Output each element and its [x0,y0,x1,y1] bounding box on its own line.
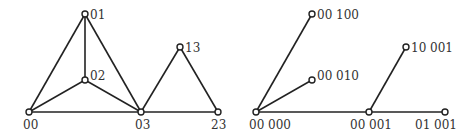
node-label: 02 [90,69,105,83]
node-label: 00 010 [317,69,359,83]
node-00010 [309,77,315,83]
node-label: 00 [23,118,38,132]
node-label: 23 [211,118,226,132]
graph-canvas: 00010203132300 00000 10000 01000 00110 0… [0,0,468,138]
node-label: 03 [135,118,150,132]
node-00001 [366,109,372,115]
node-23 [215,109,221,115]
node-02 [82,77,88,83]
node-01001 [442,109,448,115]
edge-00001-10001 [369,47,406,112]
node-03 [138,109,144,115]
edge-03-13 [141,47,180,112]
edge-00-01 [29,14,85,112]
node-label: 00 001 [350,118,392,132]
edge-13-23 [180,47,218,112]
node-label: 13 [185,41,200,55]
node-label: 00 100 [317,8,359,22]
node-01 [82,11,88,17]
left-graph: 000102031323 [23,8,226,132]
edge-00000-00100 [256,14,312,112]
edge-01-03 [85,14,141,112]
node-label: 01 001 [415,118,457,132]
node-13 [177,44,183,50]
node-00100 [309,11,315,17]
right-tree: 00 00000 10000 01000 00110 00101 001 [249,8,457,132]
node-10001 [403,44,409,50]
node-label: 00 000 [249,118,291,132]
node-00000 [253,109,259,115]
node-00 [26,109,32,115]
node-label: 01 [90,8,105,22]
node-label: 10 001 [411,41,453,55]
